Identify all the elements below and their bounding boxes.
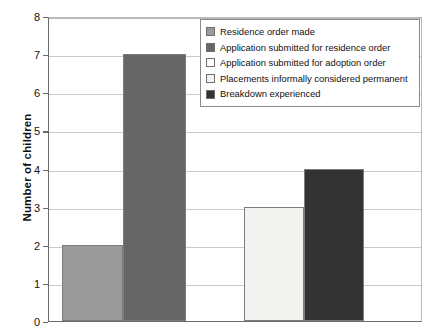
legend-item-label: Breakdown experienced bbox=[220, 89, 321, 98]
bar-chart: Number of children 012345678 Residence o… bbox=[0, 0, 442, 335]
legend-swatch-icon bbox=[206, 74, 215, 83]
bar bbox=[123, 54, 186, 321]
legend-item-label: Residence order made bbox=[220, 27, 315, 36]
legend-item: Breakdown experienced bbox=[206, 86, 413, 102]
legend-item-label: Application submitted for adoption order bbox=[220, 58, 386, 67]
bar bbox=[304, 169, 364, 322]
y-axis-tick-mark bbox=[43, 322, 48, 323]
legend-item: Residence order made bbox=[206, 24, 413, 40]
legend-item: Application submitted for adoption order bbox=[206, 55, 413, 71]
legend-swatch-icon bbox=[206, 58, 215, 67]
legend-item: Placements informally considered permane… bbox=[206, 71, 413, 87]
bar bbox=[62, 245, 123, 321]
bar bbox=[244, 207, 304, 321]
legend-item-label: Placements informally considered permane… bbox=[220, 74, 408, 83]
legend-swatch-icon bbox=[206, 90, 215, 99]
legend-swatch-icon bbox=[206, 27, 215, 36]
legend-swatch-icon bbox=[206, 43, 215, 52]
legend-item-label: Application submitted for residence orde… bbox=[220, 43, 390, 52]
legend-item: Application submitted for residence orde… bbox=[206, 40, 413, 56]
y-axis-title: Number of children bbox=[14, 0, 40, 335]
chart-legend: Residence order madeApplication submitte… bbox=[200, 19, 420, 107]
